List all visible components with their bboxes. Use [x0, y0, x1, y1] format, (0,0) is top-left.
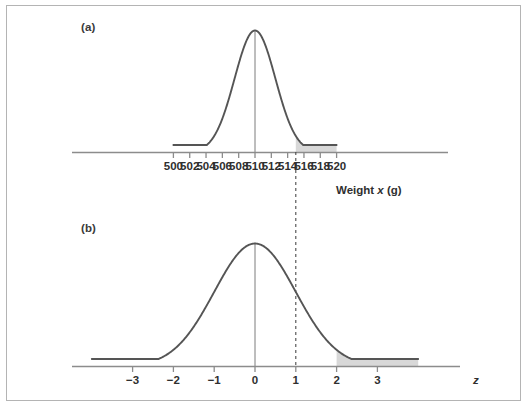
distribution-plot [0, 0, 527, 413]
panel-a-group [72, 31, 448, 159]
tick-label: 1 [293, 374, 299, 386]
tick-label: −3 [126, 374, 139, 386]
tick-label: 520 [327, 160, 346, 172]
panel-b-tick-marks [133, 367, 378, 373]
panel-b-axis-title: z [473, 374, 479, 386]
panel-b-group [72, 244, 460, 373]
panel-a-axis-title: Weight x (g) [336, 184, 402, 196]
tick-label: −1 [208, 374, 221, 386]
tick-label: −2 [167, 374, 180, 386]
panel-a-label: (a) [81, 21, 95, 33]
panel-a-tick-marks [173, 153, 336, 159]
panel-b-label: (b) [81, 222, 96, 234]
figure-root: (a) (b) 50050250450650851051251451651852… [0, 0, 527, 413]
tick-label: 0 [252, 374, 258, 386]
tick-label: 3 [374, 374, 380, 386]
tick-label: 2 [333, 374, 339, 386]
